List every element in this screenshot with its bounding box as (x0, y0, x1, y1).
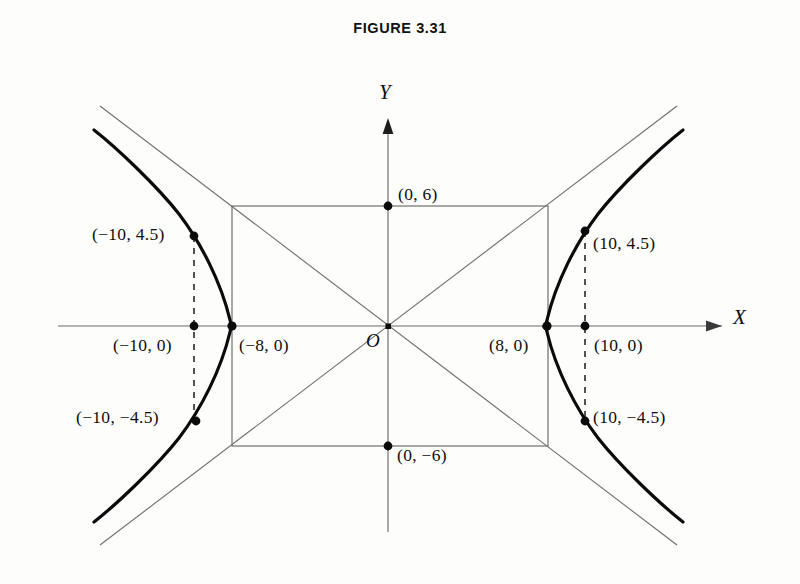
origin-point (386, 324, 392, 330)
label-point-neg8-0: (−8, 0) (239, 335, 289, 356)
point-10-neg4p5 (581, 417, 590, 426)
point-neg10-4p5 (190, 232, 199, 241)
point-neg10-neg4p5 (192, 417, 201, 426)
point-neg10-0 (190, 322, 199, 331)
label-point-8-0: (8, 0) (489, 335, 529, 356)
y-axis-arrowhead (383, 118, 394, 134)
label-point-10-neg4p5: (10, −4.5) (593, 407, 666, 428)
point-8-0 (542, 321, 551, 330)
label-point-neg10-neg4p5: (−10, −4.5) (76, 407, 159, 428)
hyperbola-plot (0, 0, 800, 584)
point-0-6 (384, 202, 393, 211)
origin-label: O (366, 330, 380, 352)
label-point-10-0: (10, 0) (594, 335, 643, 356)
figure-container: FIGURE 3.31 Y X O ( (0, 0, 800, 584)
label-point-10-4p5: (10, 4.5) (593, 233, 655, 254)
label-point-neg10-4p5: (−10, 4.5) (92, 224, 165, 245)
label-point-0-neg6: (0, −6) (397, 445, 447, 466)
point-10-0 (581, 322, 590, 331)
point-0-neg6 (384, 442, 393, 451)
label-point-neg10-0: (−10, 0) (113, 335, 172, 356)
label-point-0-6: (0, 6) (398, 184, 438, 205)
x-axis-arrowhead (706, 321, 722, 332)
point-10-4p5 (581, 227, 590, 236)
x-axis-label: X (733, 305, 746, 330)
y-axis-label: Y (379, 80, 391, 105)
point-neg8-0 (227, 321, 236, 330)
